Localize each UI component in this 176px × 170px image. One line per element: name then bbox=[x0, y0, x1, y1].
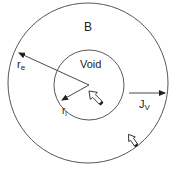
inner-radius-subscript: i bbox=[65, 110, 67, 117]
inner-radius-arrow bbox=[62, 85, 89, 100]
vacancy-hollow-arrow-inner bbox=[85, 87, 105, 107]
void-diagram: B Void re ri JV bbox=[0, 0, 176, 170]
inner-radius-label: ri bbox=[62, 105, 67, 117]
void-label: Void bbox=[80, 58, 101, 70]
outer-radius-subscript: e bbox=[21, 63, 26, 72]
region-b-label: B bbox=[84, 20, 92, 34]
flux-label: JV bbox=[139, 98, 151, 112]
outer-radius-label: re bbox=[17, 58, 26, 72]
flux-subscript: V bbox=[145, 103, 151, 112]
